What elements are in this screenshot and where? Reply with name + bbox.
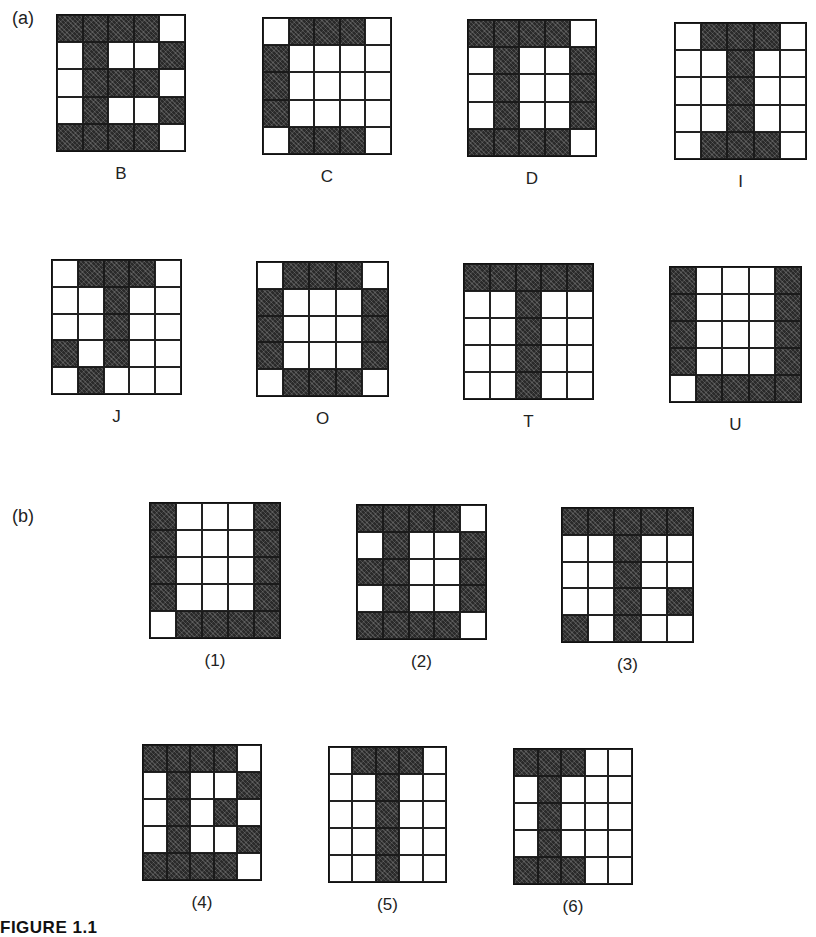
pattern-caption: J (51, 407, 182, 427)
empty-cell (585, 830, 609, 857)
empty-cell (608, 749, 632, 776)
empty-cell (352, 774, 375, 801)
empty-cell (570, 129, 596, 156)
empty-cell (464, 345, 490, 372)
filled-cell (376, 774, 399, 801)
empty-cell (202, 530, 228, 557)
empty-cell (202, 503, 228, 530)
filled-cell (670, 348, 696, 375)
filled-cell (104, 287, 130, 314)
empty-cell (228, 557, 254, 584)
empty-cell (362, 369, 388, 396)
empty-cell (641, 562, 667, 589)
pixel-grid (51, 259, 182, 395)
empty-cell (78, 287, 104, 314)
filled-cell (775, 375, 801, 402)
empty-cell (129, 314, 155, 341)
empty-cell (340, 100, 366, 127)
empty-cell (52, 314, 78, 341)
empty-cell (365, 45, 391, 72)
empty-cell (464, 318, 490, 345)
filled-cell (283, 262, 309, 289)
pixel-grid (149, 502, 281, 639)
filled-cell (83, 124, 109, 151)
filled-cell (214, 799, 238, 826)
empty-cell (514, 776, 538, 803)
filled-cell (383, 585, 409, 612)
empty-cell (399, 801, 422, 828)
empty-cell (675, 105, 701, 132)
empty-cell (675, 132, 701, 159)
empty-cell (176, 503, 202, 530)
empty-cell (336, 342, 362, 369)
filled-cell (254, 611, 280, 638)
filled-cell (143, 853, 167, 880)
empty-cell (237, 745, 261, 772)
empty-cell (541, 291, 567, 318)
filled-cell (614, 508, 640, 535)
filled-cell (614, 588, 640, 615)
empty-cell (545, 102, 571, 129)
filled-cell (490, 264, 516, 291)
filled-cell (214, 745, 238, 772)
pattern-caption: (3) (561, 655, 694, 675)
empty-cell (134, 42, 160, 69)
empty-cell (754, 77, 780, 104)
filled-cell (57, 15, 83, 42)
filled-cell (562, 615, 588, 642)
filled-cell (775, 348, 801, 375)
pattern-figure: I (674, 22, 807, 194)
empty-cell (108, 97, 134, 124)
empty-cell (641, 588, 667, 615)
filled-cell (516, 345, 542, 372)
filled-cell (383, 505, 409, 532)
empty-cell (289, 72, 315, 99)
filled-cell (52, 340, 78, 367)
empty-cell (409, 585, 435, 612)
empty-cell (722, 267, 748, 294)
empty-cell (78, 314, 104, 341)
empty-cell (52, 367, 78, 394)
empty-cell (490, 372, 516, 399)
filled-cell (614, 562, 640, 589)
empty-cell (150, 611, 176, 638)
empty-cell (237, 799, 261, 826)
empty-cell (159, 124, 185, 151)
filled-cell (670, 294, 696, 321)
empty-cell (263, 18, 289, 45)
filled-cell (289, 18, 315, 45)
pattern-caption: T (463, 412, 594, 432)
empty-cell (155, 287, 181, 314)
filled-cell (104, 314, 130, 341)
filled-cell (83, 69, 109, 96)
filled-cell (254, 530, 280, 557)
filled-cell (538, 776, 562, 803)
empty-cell (399, 774, 422, 801)
empty-cell (228, 503, 254, 530)
pattern-figure: B (56, 14, 186, 186)
filled-cell (108, 69, 134, 96)
filled-cell (667, 508, 693, 535)
empty-cell (667, 562, 693, 589)
pattern-figure: U (669, 266, 802, 437)
filled-cell (314, 18, 340, 45)
empty-cell (57, 69, 83, 96)
empty-cell (365, 72, 391, 99)
empty-cell (357, 585, 383, 612)
filled-cell (376, 801, 399, 828)
filled-cell (641, 508, 667, 535)
filled-cell (538, 857, 562, 884)
empty-cell (155, 314, 181, 341)
pattern-caption: (6) (513, 897, 633, 917)
filled-cell (434, 612, 460, 639)
empty-cell (283, 342, 309, 369)
filled-cell (78, 260, 104, 287)
filled-cell (202, 611, 228, 638)
empty-cell (336, 289, 362, 316)
empty-cell (585, 857, 609, 884)
empty-cell (514, 830, 538, 857)
empty-cell (780, 105, 806, 132)
empty-cell (237, 853, 261, 880)
filled-cell (83, 97, 109, 124)
filled-cell (309, 262, 335, 289)
